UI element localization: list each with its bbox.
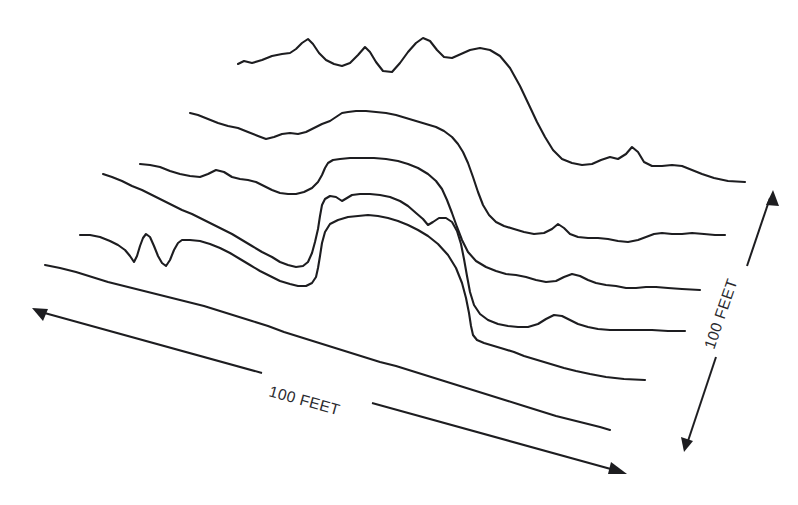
depth-scale-arrowhead-bottom bbox=[681, 437, 693, 452]
profile-trace-5 bbox=[80, 215, 645, 380]
horizontal-scale-arrowhead-left bbox=[32, 308, 48, 321]
profile-trace-group bbox=[45, 38, 745, 430]
horizontal-scale-label: 100 FEET bbox=[267, 383, 342, 419]
profile-figure: 100 FEET 100 FEET bbox=[0, 0, 798, 505]
profile-trace-3 bbox=[140, 158, 700, 290]
horizontal-scale-shaft-left bbox=[41, 312, 262, 373]
depth-scale-label: 100 FEET bbox=[701, 276, 741, 351]
horizontal-scale-arrow: 100 FEET bbox=[32, 308, 627, 474]
depth-scale-arrowhead-top bbox=[766, 190, 779, 206]
profile-trace-2 bbox=[190, 111, 725, 242]
profile-trace-1-rear bbox=[238, 38, 745, 182]
profile-figure-canvas: 100 FEET 100 FEET bbox=[0, 0, 798, 505]
depth-scale-shaft-lower bbox=[687, 357, 716, 444]
depth-scale-shaft-upper bbox=[747, 198, 770, 266]
horizontal-scale-shaft-right bbox=[372, 403, 618, 471]
depth-scale-arrow: 100 FEET bbox=[681, 190, 779, 452]
profile-trace-4 bbox=[103, 174, 685, 331]
horizontal-scale-arrowhead-right bbox=[608, 462, 627, 474]
